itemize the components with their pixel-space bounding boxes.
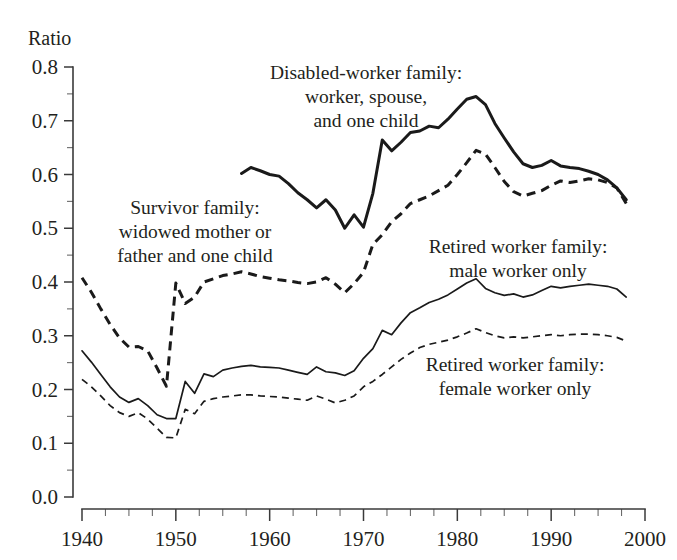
x-tick-label: 1980 [436, 527, 478, 551]
disabled-worker-label: Disabled-worker family:worker, spouse,an… [270, 62, 462, 131]
retired-male-label: Retired worker family:male worker only [429, 236, 608, 281]
x-tick-label: 2000 [624, 527, 666, 551]
survivor-label-line: father and one child [117, 245, 273, 266]
y-tick-label: 0.3 [32, 324, 58, 348]
x-tick-label: 1940 [61, 527, 103, 551]
chart-figure: Ratio 0.00.10.20.30.40.50.60.70.8 194019… [0, 0, 677, 560]
x-tick-label: 1970 [343, 527, 385, 551]
y-tick-label: 0.5 [32, 216, 58, 240]
survivor-label-line: widowed mother or [119, 221, 272, 242]
series-annotations-group: Disabled-worker family:worker, spouse,an… [117, 62, 607, 399]
x-axis-ticks: 1940195019601970198019902000 [61, 509, 666, 551]
retired-male-label-line: Retired worker family: [429, 236, 608, 257]
y-axis-title: Ratio [28, 27, 71, 49]
ratio-line-chart: Ratio 0.00.10.20.30.40.50.60.70.8 194019… [0, 0, 677, 560]
x-tick-label: 1960 [249, 527, 291, 551]
y-tick-label: 0.0 [32, 485, 58, 509]
y-tick-label: 0.8 [32, 55, 58, 79]
y-axis-title-text: Ratio [28, 27, 71, 49]
y-axis-ticks: 0.00.10.20.30.40.50.60.70.8 [32, 55, 73, 509]
retired-female-label-line: female worker only [439, 378, 592, 399]
survivor-label: Survivor family:widowed mother orfather … [117, 197, 273, 266]
retired-male-label-line: male worker only [449, 260, 587, 281]
y-tick-label: 0.2 [32, 378, 58, 402]
retired-female-label: Retired worker family:female worker only [426, 354, 605, 399]
y-tick-label: 0.4 [32, 270, 59, 294]
y-tick-label: 0.1 [32, 431, 58, 455]
survivor-label-line: Survivor family: [130, 197, 259, 218]
series-line-disabled-worker-family [242, 97, 627, 229]
disabled-worker-label-line: and one child [313, 110, 418, 131]
y-tick-label: 0.6 [32, 163, 58, 187]
x-tick-label: 1950 [155, 527, 197, 551]
y-tick-label: 0.7 [32, 109, 58, 133]
disabled-worker-label-line: worker, spouse, [305, 86, 427, 107]
disabled-worker-label-line: Disabled-worker family: [270, 62, 462, 83]
retired-female-label-line: Retired worker family: [426, 354, 605, 375]
x-tick-label: 1990 [530, 527, 572, 551]
